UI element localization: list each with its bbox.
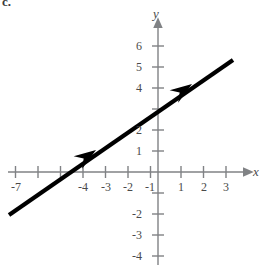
x-tick-label-2: 2 bbox=[195, 180, 213, 195]
y-axis-label: y bbox=[153, 6, 159, 22]
x-tick-label-1: 1 bbox=[172, 180, 190, 195]
y-tick-label-4: 4 bbox=[130, 81, 148, 96]
x-tick-label--4: -4 bbox=[72, 180, 94, 195]
figure-canvas: c. bbox=[0, 0, 272, 271]
x-tick-label--2: -2 bbox=[117, 180, 139, 195]
x-tick-label-3: 3 bbox=[217, 180, 235, 195]
y-axis bbox=[152, 27, 164, 265]
y-tick-label--3: -3 bbox=[126, 228, 148, 243]
x-tick-label--7: -7 bbox=[5, 180, 27, 195]
x-axis-label: x bbox=[253, 164, 259, 180]
x-tick-label--1: -1 bbox=[139, 180, 161, 195]
x-tick-label--3: -3 bbox=[95, 180, 117, 195]
y-tick-label--2: -2 bbox=[126, 207, 148, 222]
y-tick-label-1: 1 bbox=[130, 144, 148, 159]
y-tick-label-6: 6 bbox=[130, 39, 148, 54]
y-tick-label--4: -4 bbox=[126, 249, 148, 264]
x-axis bbox=[8, 166, 244, 178]
y-tick-label-5: 5 bbox=[130, 60, 148, 75]
y-tick-label-2: 2 bbox=[130, 123, 148, 138]
